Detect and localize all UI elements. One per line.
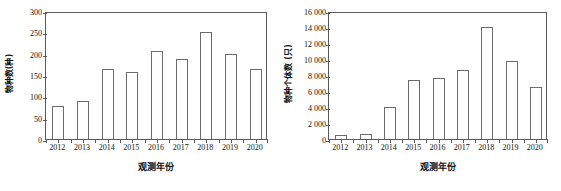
x-axis-title-left: 观测年份 bbox=[45, 160, 267, 173]
x-axis-tick-label: 2012 bbox=[49, 143, 65, 152]
bar bbox=[151, 51, 163, 139]
y-axis-tick-label: 300 bbox=[30, 8, 42, 17]
x-axis-tick-label: 2019 bbox=[503, 143, 519, 152]
y-axis-tick-mark bbox=[326, 29, 330, 30]
y-axis-tick-mark bbox=[326, 61, 330, 62]
y-axis-tick-label: 2 000 bbox=[308, 120, 326, 129]
panel-species-count: 物种数(种) 050100150200250300 20122013201420… bbox=[0, 0, 280, 191]
bar bbox=[384, 107, 396, 139]
x-axis-tick-label: 2014 bbox=[381, 143, 397, 152]
bar bbox=[102, 69, 114, 139]
x-axis-tick-label: 2018 bbox=[478, 143, 494, 152]
bar bbox=[77, 101, 89, 139]
y-axis-tick-label: 6 000 bbox=[308, 88, 326, 97]
bar bbox=[408, 80, 420, 139]
x-axis-tick-label: 2017 bbox=[454, 143, 470, 152]
y-axis-tick-label: 10 000 bbox=[304, 56, 326, 65]
y-axis-tick-labels-right: 02 0004 0006 0008 00010 00012 00014 0001… bbox=[284, 0, 326, 191]
x-axis-tick-label: 2018 bbox=[197, 143, 213, 152]
y-axis-tick-label: 200 bbox=[30, 50, 42, 59]
y-axis-tick-mark bbox=[43, 77, 47, 78]
x-axis-boundary-tick-mark bbox=[267, 139, 268, 143]
bars-left bbox=[46, 13, 266, 139]
y-axis-tick-mark bbox=[326, 13, 330, 14]
y-axis-tick-mark bbox=[326, 109, 330, 110]
x-axis-tick-label: 2013 bbox=[357, 143, 373, 152]
y-axis-tick-mark bbox=[43, 120, 47, 121]
bar bbox=[200, 32, 212, 139]
y-axis-tick-label: 250 bbox=[30, 29, 42, 38]
y-axis-tick-mark bbox=[326, 125, 330, 126]
plot-area-right bbox=[328, 12, 547, 140]
bar bbox=[457, 70, 469, 139]
y-axis-tick-label: 0 bbox=[322, 136, 326, 145]
figure-two-panel-bar-charts: 物种数(种) 050100150200250300 20122013201420… bbox=[0, 0, 561, 191]
x-axis-title-right: 观测年份 bbox=[328, 160, 547, 173]
y-axis-tick-label: 14 000 bbox=[304, 24, 326, 33]
bar bbox=[126, 72, 138, 139]
bars-right bbox=[329, 13, 546, 139]
y-axis-tick-mark bbox=[326, 93, 330, 94]
y-axis-tick-label: 150 bbox=[30, 72, 42, 81]
y-axis-tick-label: 50 bbox=[34, 114, 42, 123]
y-axis-tick-mark bbox=[43, 98, 47, 99]
x-axis-tick-label: 2020 bbox=[527, 143, 543, 152]
bar bbox=[250, 69, 262, 139]
x-axis-tick-label: 2015 bbox=[123, 143, 139, 152]
panel-individual-count: 物种个体数 (只) 02 0004 0006 0008 00010 00012 … bbox=[280, 0, 560, 191]
x-axis-tick-label: 2013 bbox=[74, 143, 90, 152]
y-axis-tick-mark bbox=[326, 45, 330, 46]
x-axis-tick-label: 2017 bbox=[173, 143, 189, 152]
y-axis-tick-label: 4 000 bbox=[308, 104, 326, 113]
x-axis-tick-label: 2015 bbox=[405, 143, 421, 152]
x-axis-tick-label: 2014 bbox=[99, 143, 115, 152]
y-axis-tick-label: 8 000 bbox=[308, 72, 326, 81]
y-axis-tick-mark bbox=[43, 56, 47, 57]
plot-area-left bbox=[45, 12, 267, 140]
x-axis-tick-label: 2016 bbox=[148, 143, 164, 152]
bar bbox=[176, 59, 188, 139]
y-axis-tick-label: 16 000 bbox=[304, 8, 326, 17]
x-axis-tick-label: 2016 bbox=[430, 143, 446, 152]
x-axis-boundary-tick-mark bbox=[547, 139, 548, 143]
y-axis-tick-mark bbox=[326, 77, 330, 78]
y-axis-tick-mark bbox=[43, 13, 47, 14]
bar bbox=[506, 61, 518, 139]
y-axis-tick-labels-left: 050100150200250300 bbox=[12, 0, 42, 191]
x-axis-tick-label: 2020 bbox=[247, 143, 263, 152]
bar bbox=[52, 106, 64, 139]
y-axis-tick-label: 100 bbox=[30, 93, 42, 102]
bar bbox=[225, 54, 237, 139]
bar bbox=[530, 87, 542, 139]
bar bbox=[433, 78, 445, 139]
x-axis-tick-labels-right: 201220132014201520162017201820192020 bbox=[328, 143, 547, 157]
y-axis-tick-mark bbox=[43, 34, 47, 35]
x-axis-tick-label: 2019 bbox=[222, 143, 238, 152]
bar bbox=[481, 27, 493, 139]
y-axis-tick-label: 0 bbox=[38, 136, 42, 145]
y-axis-tick-label: 12 000 bbox=[304, 40, 326, 49]
x-axis-tick-labels-left: 201220132014201520162017201820192020 bbox=[45, 143, 267, 157]
x-axis-tick-label: 2012 bbox=[332, 143, 348, 152]
